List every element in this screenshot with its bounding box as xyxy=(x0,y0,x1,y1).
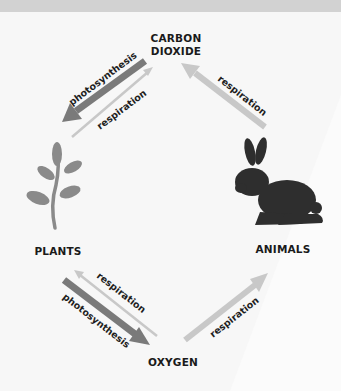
node-carbon-dioxide: CARBON DIOXIDE xyxy=(146,32,206,58)
cycle-diagram: photosynthesis respiration respiration r… xyxy=(0,0,341,391)
node-animals: ANIMALS xyxy=(255,243,311,256)
carbon-dioxide-line1: CARBON xyxy=(146,32,206,45)
node-plants: PLANTS xyxy=(33,245,83,258)
node-oxygen: OXYGEN xyxy=(145,356,201,369)
plant-sprig-icon xyxy=(25,142,84,228)
carbon-dioxide-line2: DIOXIDE xyxy=(146,45,206,58)
